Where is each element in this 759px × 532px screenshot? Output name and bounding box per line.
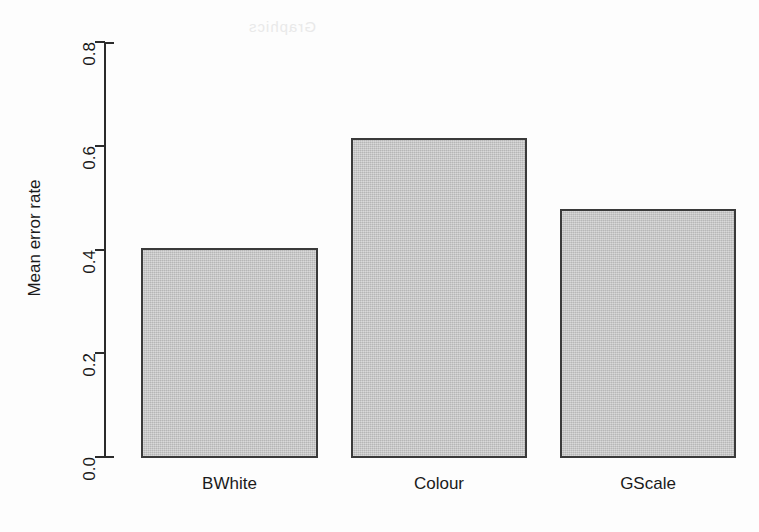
y-axis-cap-bottom [104,456,114,458]
x-axis-label-colour: Colour [351,474,527,494]
bar-gscale [560,209,736,458]
y-axis-tick-label: 0.2 [0,343,90,363]
y-axis-tick-label: 0.4 [0,240,90,260]
x-axis-label-gscale: GScale [560,474,736,494]
y-axis-tick-label-text: 0.6 [80,146,100,170]
bar-chart-plot: 0.00.20.40.60.8 Mean error rate BWhiteCo… [0,0,759,532]
y-axis-tick-label-text: 0.4 [80,250,100,274]
y-axis-tick-label-text: 0.0 [80,457,100,481]
bar-bwhite [141,248,318,458]
y-axis-cap-top [104,42,114,44]
x-axis-label-bwhite: BWhite [141,474,318,494]
bar-colour [351,138,527,458]
y-axis-tick-label: 0.8 [0,32,90,52]
y-axis-tick-label-text: 0.8 [80,42,100,66]
y-axis-title: Mean error rate [25,158,45,318]
y-axis-tick-label: 0.0 [0,447,90,467]
y-axis-tick-label: 0.6 [0,136,90,156]
chart-page: Graphics 0.00.20.40.60.8 Mean error rate… [0,0,759,532]
y-axis-tick-label-text: 0.2 [80,353,100,377]
